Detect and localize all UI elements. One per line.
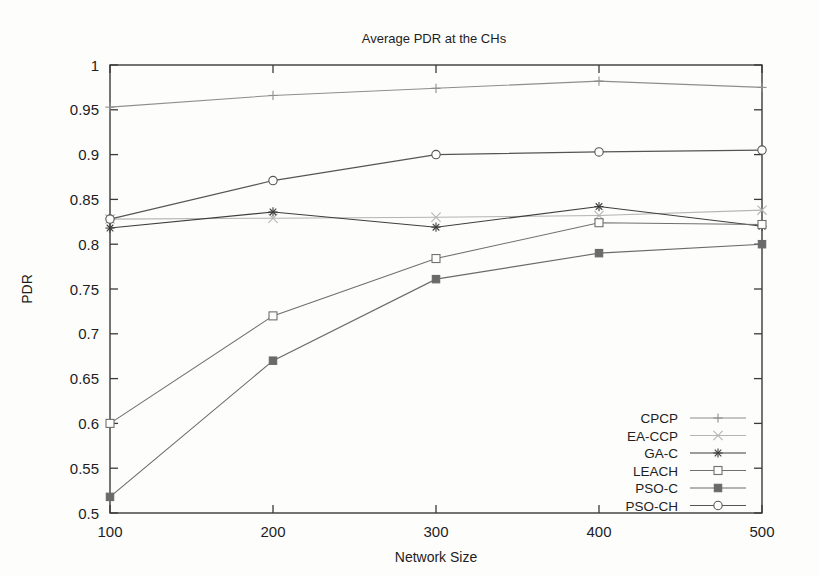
data-point-marker — [714, 467, 722, 475]
y-tick-label: 0.5 — [78, 505, 99, 522]
x-tick-label: 400 — [586, 523, 611, 540]
data-point-marker — [713, 448, 722, 457]
chart-background — [0, 0, 819, 576]
data-point-marker — [714, 484, 721, 491]
data-point-marker — [106, 419, 114, 427]
y-tick-label: 0.6 — [78, 415, 99, 432]
y-tick-label: 0.95 — [70, 101, 99, 118]
data-point-marker — [106, 493, 113, 500]
y-tick-label: 0.75 — [70, 281, 99, 298]
data-point-marker — [432, 255, 440, 263]
data-point-marker — [269, 357, 276, 364]
legend-label: LEACH — [633, 464, 678, 479]
data-point-marker — [269, 312, 277, 320]
y-tick-label: 0.9 — [78, 146, 99, 163]
data-point-marker — [758, 220, 766, 228]
data-point-marker — [594, 202, 603, 211]
y-axis-title: PDR — [19, 274, 35, 304]
data-point-marker — [268, 207, 277, 216]
legend-label: PSO-CH — [625, 499, 678, 514]
x-tick-label: 100 — [97, 523, 122, 540]
y-tick-label: 0.7 — [78, 325, 99, 342]
data-point-marker — [758, 146, 766, 154]
chart-title: Average PDR at the CHs — [362, 31, 507, 46]
data-point-marker — [758, 241, 765, 248]
x-axis-title: Network Size — [395, 549, 478, 565]
data-point-marker — [431, 223, 440, 232]
data-point-marker — [432, 150, 440, 158]
y-tick-label: 0.55 — [70, 460, 99, 477]
average-pdr-line-chart: Average PDR at the CHs 0.50.550.60.650.7… — [0, 0, 819, 576]
data-point-marker — [714, 501, 722, 509]
y-tick-label: 0.8 — [78, 236, 99, 253]
data-point-marker — [432, 275, 439, 282]
data-point-marker — [105, 223, 114, 232]
x-tick-label: 300 — [423, 523, 448, 540]
data-point-marker — [595, 249, 602, 256]
data-point-marker — [595, 219, 603, 227]
x-tick-label: 500 — [749, 523, 774, 540]
y-tick-label: 0.65 — [70, 370, 99, 387]
legend-label: GA-C — [644, 446, 678, 461]
x-tick-label: 200 — [260, 523, 285, 540]
legend-label: CPCP — [640, 411, 678, 426]
legend-label: EA-CCP — [627, 429, 678, 444]
data-point-marker — [106, 215, 114, 223]
data-point-marker — [269, 176, 277, 184]
y-tick-label: 1 — [91, 57, 99, 74]
y-tick-label: 0.85 — [70, 191, 99, 208]
data-point-marker — [595, 148, 603, 156]
legend-label: PSO-C — [635, 481, 678, 496]
chart-figure: Average PDR at the CHs 0.50.550.60.650.7… — [0, 0, 819, 576]
